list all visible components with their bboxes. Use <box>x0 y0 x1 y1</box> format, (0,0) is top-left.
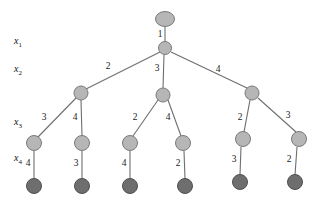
level-axis-label: x2 <box>13 63 22 77</box>
tree-internal-node <box>156 88 170 102</box>
tree-edge <box>244 100 250 132</box>
edge-weight-label: 3 <box>232 154 237 164</box>
tree-edge <box>171 52 247 88</box>
edge-weight-label: 3 <box>74 158 79 168</box>
tree-leaf-node <box>75 179 90 194</box>
tree-leaf-node <box>178 179 193 194</box>
edge-weight-label: 2 <box>287 154 292 164</box>
tree-internal-node <box>75 136 90 151</box>
edge-weight-label: 4 <box>122 158 127 168</box>
tree-edge <box>81 100 82 136</box>
edge-weight-label: 3 <box>42 112 47 122</box>
tree-leaf-node <box>27 179 42 194</box>
level-axis-label: x1 <box>13 35 22 49</box>
edge-weight-label: 4 <box>166 112 171 122</box>
tree-internal-node <box>27 136 42 151</box>
edge-weight-label: 2 <box>106 61 111 71</box>
edge-weight-label: 1 <box>158 29 163 39</box>
tree-leaf-node <box>123 179 138 194</box>
tree-diagram: 1234342423434232 x1x2x3x4 <box>0 0 320 206</box>
edge-weight-label: 2 <box>133 112 138 122</box>
tree-internal-node <box>159 42 172 55</box>
tree-internal-node <box>245 86 259 100</box>
edge-weight-label: 4 <box>216 64 221 74</box>
edge-weight-label: 3 <box>155 63 160 73</box>
tree-leaf-node <box>233 175 248 190</box>
tree-edge <box>295 147 297 175</box>
edge-weight-label: 2 <box>238 112 243 122</box>
edge-weight-label: 3 <box>286 110 291 120</box>
tree-internal-node <box>236 132 251 147</box>
tree-internal-node <box>123 136 138 151</box>
tree-edge <box>240 147 241 175</box>
tree-edge <box>163 55 164 88</box>
level-axis-label: x4 <box>13 152 22 166</box>
tree-internal-node <box>292 132 307 147</box>
tree-edge <box>184 151 185 179</box>
tree-diagram-canvas: 1234342423434232 x1x2x3x4 <box>0 0 320 206</box>
level-axis-label: x3 <box>13 116 22 130</box>
tree-internal-node <box>156 12 175 27</box>
edge-weight-label: 4 <box>73 112 78 122</box>
edge-weight-label: 2 <box>176 158 181 168</box>
level-label-layer: x1x2x3x4 <box>13 35 22 166</box>
tree-edge <box>86 52 160 89</box>
tree-internal-node <box>176 136 191 151</box>
tree-internal-node <box>74 86 88 100</box>
tree-leaf-node <box>288 175 303 190</box>
edge-weight-label: 4 <box>26 158 31 168</box>
node-layer <box>27 12 307 194</box>
